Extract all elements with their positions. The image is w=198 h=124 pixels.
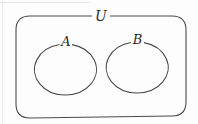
set-a-label: A	[60, 34, 70, 49]
set-b-ellipse	[106, 43, 168, 93]
venn-diagram: U A B	[0, 0, 198, 124]
set-b-label: B	[132, 32, 143, 47]
universe-rectangle	[16, 16, 186, 118]
universe-label: U	[95, 8, 108, 24]
venn-diagram-canvas: U A B	[0, 0, 198, 124]
set-a-ellipse	[34, 45, 96, 96]
